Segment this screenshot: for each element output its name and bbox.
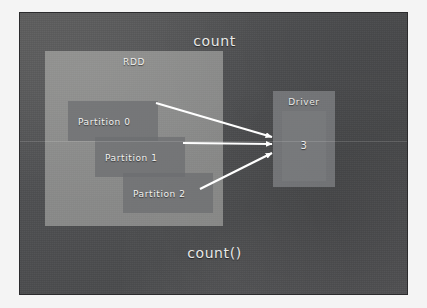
partition-label-0: Partition 0 xyxy=(78,117,131,127)
partition-label-1: Partition 1 xyxy=(105,153,158,163)
driver-result-value: 3 xyxy=(282,140,326,151)
page-caption: count() xyxy=(20,245,408,261)
slide-background: count RDD Partition 0 Partition 1 Partit… xyxy=(19,12,408,295)
partition-label-2: Partition 2 xyxy=(133,189,186,199)
page-title: count xyxy=(20,33,408,49)
rdd-label: RDD xyxy=(45,57,223,67)
driver-label: Driver xyxy=(273,97,335,107)
page-canvas: count RDD Partition 0 Partition 1 Partit… xyxy=(0,0,427,308)
